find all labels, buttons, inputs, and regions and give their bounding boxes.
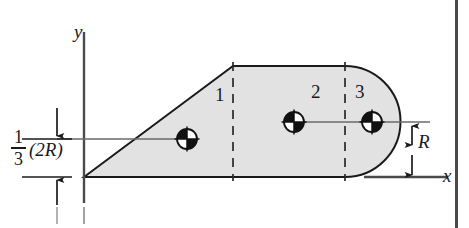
x-axis-label: x [443,166,451,185]
page-border-right [455,0,458,228]
dimension-one-third-2R [22,108,72,224]
region-label-1: 1 [215,85,225,104]
region-label-2: 2 [311,82,321,101]
fraction-numerator: 1 [12,128,25,146]
y-axis-label: y [74,22,82,41]
region-label-3: 3 [355,82,365,101]
dimension-label-2R: (2R) [29,140,63,159]
fraction-denominator: 3 [12,150,25,168]
figure-container: y x 1 2 3 1 3 (2R) R [0,0,469,228]
dimension-label-R: R [418,132,430,151]
dimension-label-one-third: 1 3 [11,128,26,168]
composite-area-diagram [0,0,469,228]
